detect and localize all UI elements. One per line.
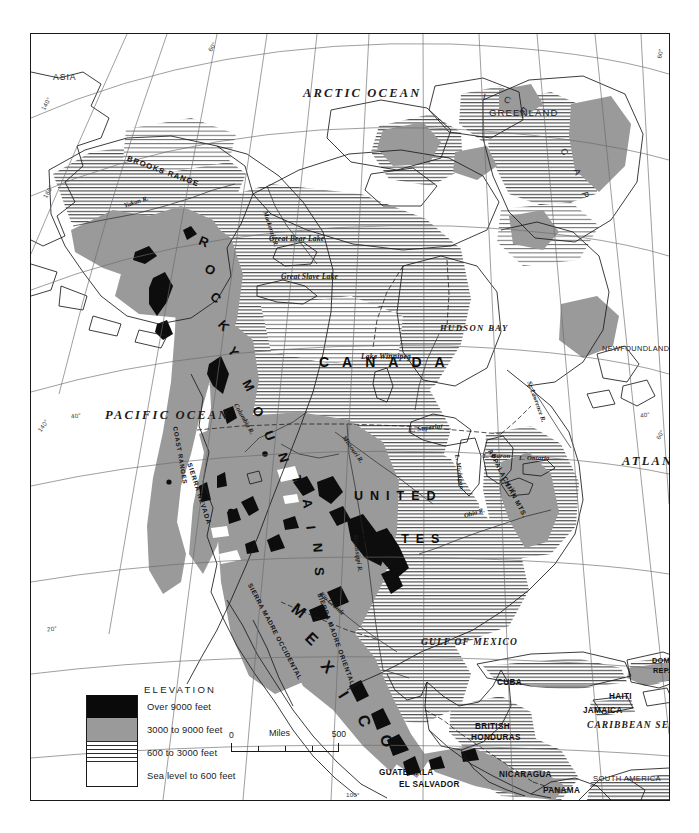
scale-bar: 0 Miles 500 xyxy=(231,742,339,752)
legend-title: ELEVATION xyxy=(144,684,236,695)
scale-min-label: 0 xyxy=(229,730,234,740)
legend-swatch-sea-level-600 xyxy=(86,764,138,787)
legend-row: Sea level to 600 feet xyxy=(86,764,236,787)
legend-swatch-600-3000 xyxy=(86,741,138,764)
legend-label: 600 to 3000 feet xyxy=(147,747,217,758)
legend-row: 600 to 3000 feet xyxy=(86,741,236,764)
legend-label: Sea level to 600 feet xyxy=(147,770,236,781)
scale-max-label: 500 xyxy=(332,729,346,739)
map-page: ARCTIC OCEAN PACIFIC OCEAN ATLANTIC OCEA… xyxy=(0,0,699,833)
scale-unit-label: Miles xyxy=(269,728,290,738)
legend-swatch-3000-9000 xyxy=(86,718,138,741)
legend-swatch-over-9000 xyxy=(86,695,138,718)
elevation-legend: ELEVATION Over 9000 feet 3000 to 9000 fe… xyxy=(86,684,236,787)
legend-label: 3000 to 9000 feet xyxy=(147,724,223,735)
legend-label: Over 9000 feet xyxy=(147,701,211,712)
scale-line xyxy=(231,742,339,752)
legend-row: 3000 to 9000 feet xyxy=(86,718,236,741)
legend-row: Over 9000 feet xyxy=(86,695,236,718)
